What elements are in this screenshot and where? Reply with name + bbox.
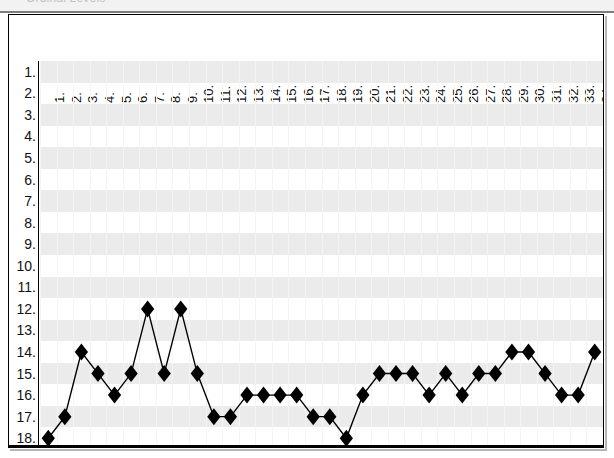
row-header-label: 1. <box>8 63 36 81</box>
data-series <box>40 61 603 448</box>
plot-canvas <box>40 61 603 448</box>
data-point-marker[interactable] <box>174 300 187 317</box>
x-axis-baseline <box>9 445 604 447</box>
row-header-label: 16. <box>8 386 36 404</box>
window-title: Ordinal Levels <box>26 0 106 5</box>
row-header-label: 8. <box>8 214 36 232</box>
data-point-marker[interactable] <box>207 408 220 425</box>
row-header-label: 17. <box>8 408 36 426</box>
data-point-marker[interactable] <box>273 387 286 404</box>
row-header-label: 13. <box>8 321 36 339</box>
data-point-marker[interactable] <box>141 300 154 317</box>
row-header-label: 14. <box>8 343 36 361</box>
title-divider <box>0 11 614 13</box>
plot-frame-shadow-bottom <box>10 449 606 451</box>
row-header-label: 12. <box>8 300 36 318</box>
row-header-label: 9. <box>8 235 36 253</box>
row-header-label: 6. <box>8 171 36 189</box>
data-point-marker[interactable] <box>389 365 402 382</box>
plot-frame-shadow-right <box>605 16 607 451</box>
row-header-label: 15. <box>8 365 36 383</box>
data-point-marker[interactable] <box>257 387 270 404</box>
row-header-label: 4. <box>8 127 36 145</box>
row-header-label: 5. <box>8 149 36 167</box>
data-point-marker[interactable] <box>588 344 601 361</box>
data-point-marker[interactable] <box>572 387 585 404</box>
data-point-marker[interactable] <box>191 365 204 382</box>
row-header-label: 10. <box>8 257 36 275</box>
row-header-label: 2. <box>8 84 36 102</box>
row-label-gutter: 1.2.3.4.5.6.7.8.9.10.11.12.13.14.15.16.1… <box>9 61 39 448</box>
row-header-label: 7. <box>8 192 36 210</box>
window-title-bar: Ordinal Levels <box>0 0 614 11</box>
plot-frame: 1.2.3.4.5.6.7.8.9.10.11.12.13.14.15.16.1… <box>8 14 604 448</box>
row-header-label: 3. <box>8 106 36 124</box>
data-point-marker[interactable] <box>158 365 171 382</box>
row-header-label: 11. <box>8 278 36 296</box>
column-header-row: 1.2.3.4.5.6.7.8.9.10.11.12.13.14.15.16.1… <box>9 15 603 61</box>
